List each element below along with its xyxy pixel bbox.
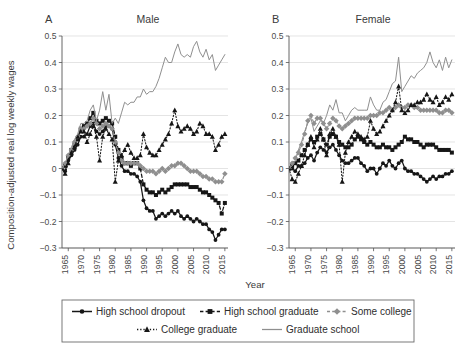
x-tick-label: 2000 bbox=[397, 255, 407, 274]
panel-a-title: Male bbox=[137, 13, 160, 25]
panel-a: A Male −0.3−0.2−0.100.10.20.30.40.5 1965… bbox=[40, 13, 228, 274]
legend-label[interactable]: Graduate school bbox=[286, 324, 359, 335]
legend: High school dropoutHigh school graduateS… bbox=[62, 300, 414, 342]
x-tick-label: 1970 bbox=[303, 255, 313, 274]
panel-b-title: Female bbox=[355, 13, 390, 25]
panel-b-x-axis: 1965197019751980198519901995200020052010… bbox=[287, 248, 455, 274]
panel-a-x-axis: 1965197019751980198519901995200020052010… bbox=[60, 248, 228, 274]
series-college-graduate bbox=[59, 107, 227, 183]
y-tick-label: −0.1 bbox=[40, 190, 57, 200]
legend-label[interactable]: Some college bbox=[351, 306, 412, 317]
legend-label[interactable]: High school graduate bbox=[224, 306, 319, 317]
x-tick-label: 1975 bbox=[92, 255, 102, 274]
x-tick-label: 1985 bbox=[123, 255, 133, 274]
x-tick-label: 1980 bbox=[334, 255, 344, 274]
x-tick-label: 1970 bbox=[76, 255, 86, 274]
x-tick-label: 1965 bbox=[287, 255, 297, 274]
x-tick-label: 1995 bbox=[154, 255, 164, 274]
y-tick-label: −0.2 bbox=[267, 217, 284, 227]
y-tick-label: 0.2 bbox=[45, 111, 57, 121]
y-tick-label: 0 bbox=[279, 164, 284, 174]
legend-marker-circle-icon bbox=[80, 309, 85, 314]
x-tick-label: 2010 bbox=[201, 255, 211, 274]
x-tick-label: 1990 bbox=[139, 255, 149, 274]
legend-label[interactable]: High school dropout bbox=[96, 306, 185, 317]
x-axis-title: Year bbox=[245, 279, 265, 290]
legend-marker-diamond-icon bbox=[334, 308, 341, 315]
x-tick-label: 1965 bbox=[60, 255, 70, 274]
x-tick-label: 1990 bbox=[366, 255, 376, 274]
y-tick-label: 0.1 bbox=[272, 137, 284, 147]
x-tick-label: 1980 bbox=[107, 255, 117, 274]
y-tick-label: 0.3 bbox=[272, 84, 284, 94]
y-tick-label: 0.5 bbox=[45, 31, 57, 41]
legend-marker-triangle-icon bbox=[144, 326, 150, 332]
panel-a-letter: A bbox=[45, 13, 53, 25]
y-tick-label: −0.3 bbox=[40, 243, 57, 253]
panel-b-letter: B bbox=[272, 13, 279, 25]
y-tick-label: 0.1 bbox=[45, 137, 57, 147]
panel-b-series-group bbox=[286, 52, 454, 184]
y-tick-label: −0.1 bbox=[267, 190, 284, 200]
x-tick-label: 2000 bbox=[170, 255, 180, 274]
x-tick-label: 2005 bbox=[413, 255, 423, 274]
panel-a-y-axis: −0.3−0.2−0.100.10.20.30.40.5 bbox=[40, 31, 62, 253]
y-axis-title: Composition-adjusted real log weekly wag… bbox=[5, 60, 16, 250]
panel-a-series-group bbox=[59, 41, 227, 242]
figure-canvas: A Male −0.3−0.2−0.100.10.20.30.40.5 1965… bbox=[0, 0, 468, 352]
series-graduate-school bbox=[62, 41, 225, 168]
x-tick-label: 2010 bbox=[428, 255, 438, 274]
legend-items: High school dropoutHigh school graduateS… bbox=[72, 306, 412, 335]
x-tick-label: 2015 bbox=[444, 255, 454, 274]
y-tick-label: −0.3 bbox=[267, 243, 284, 253]
y-tick-label: 0.2 bbox=[272, 111, 284, 121]
panel-b: B Female −0.3−0.2−0.100.10.20.30.40.5 19… bbox=[267, 13, 455, 274]
x-tick-label: 1985 bbox=[350, 255, 360, 274]
y-tick-label: −0.2 bbox=[40, 217, 57, 227]
legend-marker-square-icon bbox=[208, 309, 213, 314]
y-tick-label: 0.5 bbox=[272, 31, 284, 41]
x-tick-label: 2015 bbox=[217, 255, 227, 274]
legend-label[interactable]: College graduate bbox=[161, 324, 238, 335]
x-tick-label: 2005 bbox=[186, 255, 196, 274]
x-tick-label: 1975 bbox=[319, 255, 329, 274]
y-tick-label: 0 bbox=[52, 164, 57, 174]
y-tick-label: 0.3 bbox=[45, 84, 57, 94]
x-tick-label: 1995 bbox=[381, 255, 391, 274]
panel-b-y-axis: −0.3−0.2−0.100.10.20.30.40.5 bbox=[267, 31, 289, 253]
y-tick-label: 0.4 bbox=[272, 58, 284, 68]
y-tick-label: 0.4 bbox=[45, 58, 57, 68]
